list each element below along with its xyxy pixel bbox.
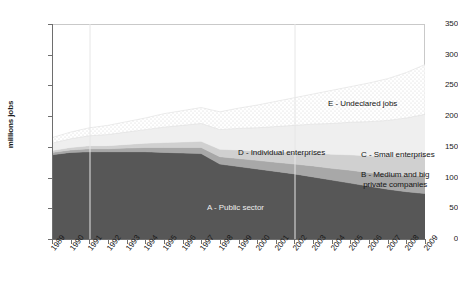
series-label-b: B - Medium and big private companies (361, 170, 429, 190)
series-label-a: A - Public sector (207, 203, 264, 213)
y-axis-title: millions jobs (6, 87, 15, 163)
series-label-b-line1: B - Medium and big (361, 170, 429, 179)
series-label-e: E - Undeclared jobs (328, 99, 397, 109)
series-label-c: C - Small enterprises (361, 150, 435, 160)
chart-root: millions jobs 350300250200150100500 1989… (0, 0, 458, 287)
series-label-b-line2: private companies (363, 180, 427, 189)
y-axis-line (52, 24, 53, 240)
series-label-d: D - Individual enterprises (238, 148, 325, 158)
